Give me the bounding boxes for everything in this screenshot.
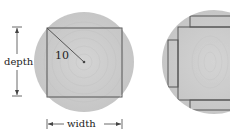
arrow-up-icon bbox=[15, 28, 19, 33]
arrow-down-icon bbox=[15, 90, 19, 95]
width-label: width bbox=[67, 118, 96, 129]
center-point bbox=[83, 61, 86, 64]
left-log-cross-section: 10 bbox=[34, 12, 134, 112]
log-circle bbox=[162, 10, 230, 114]
arrow-right-icon bbox=[116, 122, 121, 126]
radius-label: 10 bbox=[55, 49, 69, 62]
right-log-cross-section bbox=[162, 10, 230, 114]
log-beam-diagram: 10 depth width bbox=[0, 0, 230, 132]
arrow-left-icon bbox=[48, 122, 53, 126]
depth-label: depth bbox=[4, 56, 34, 67]
